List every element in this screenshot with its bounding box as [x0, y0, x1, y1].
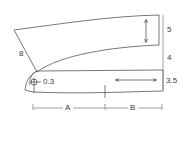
button-mark-icon — [30, 78, 41, 93]
label-collar-point-edge: 8 — [19, 50, 23, 58]
collar-pattern-diagram: 5 4 3.5 8 0.3 A B — [0, 0, 192, 152]
horizontal-grainline-arrow — [116, 79, 157, 82]
collar-fall-piece — [14, 15, 159, 72]
vertical-grainline-arrow — [145, 20, 148, 43]
label-button-offset: 0.3 — [43, 78, 54, 86]
label-stand-height: 3.5 — [166, 77, 177, 85]
label-collar-height-mid: 4 — [167, 54, 171, 62]
label-collar-height-top: 5 — [167, 26, 171, 34]
label-segment-b: B — [130, 104, 135, 112]
label-segment-a: A — [65, 104, 70, 112]
pattern-drawing — [0, 0, 192, 152]
width-dimension-line — [33, 104, 162, 110]
